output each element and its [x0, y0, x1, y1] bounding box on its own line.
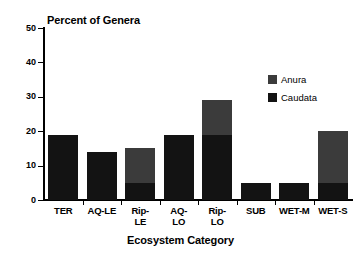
bar-segment-caudata[interactable]	[125, 183, 155, 200]
chart-title: Percent of Genera	[47, 14, 140, 26]
bar-segment-caudata[interactable]	[318, 183, 348, 200]
bar-segment-caudata[interactable]	[202, 135, 232, 200]
bar-segment-caudata[interactable]	[164, 135, 194, 200]
bar-chart: Percent of Genera 01020304050 TERAQ-LERi…	[0, 0, 361, 257]
bar-rip-le[interactable]	[125, 148, 155, 200]
x-axis-title: Ecosystem Category	[0, 234, 361, 246]
bar-aq-lo[interactable]	[164, 135, 194, 200]
legend-swatch-icon	[268, 75, 277, 84]
y-axis-tick-label: 20	[0, 127, 36, 136]
chart-legend: AnuraCaudata	[268, 72, 317, 108]
x-axis-label-wet-m: WET-M	[275, 205, 314, 216]
bar-segment-caudata[interactable]	[87, 152, 117, 200]
x-axis-label-rip-le: Rip-LE	[121, 205, 160, 227]
x-axis-label-sub: SUB	[237, 205, 276, 216]
y-axis-tick-label: 30	[0, 92, 36, 101]
x-axis-label-rip-lo: Rip-LO	[198, 205, 237, 227]
legend-swatch-icon	[268, 93, 277, 102]
bar-wet-m[interactable]	[279, 183, 309, 200]
y-axis-tick-mark	[38, 200, 44, 201]
bar-segment-anura[interactable]	[125, 148, 155, 182]
bar-segment-caudata[interactable]	[48, 135, 78, 200]
y-axis-tick-label: 10	[0, 161, 36, 170]
bar-aq-le[interactable]	[87, 152, 117, 200]
y-axis-tick-label: 40	[0, 58, 36, 67]
bar-wet-s[interactable]	[318, 131, 348, 200]
legend-label: Anura	[281, 75, 306, 85]
bar-ter[interactable]	[48, 135, 78, 200]
x-axis-label-ter: TER	[44, 205, 83, 216]
plot-area	[44, 28, 352, 200]
x-axis-label-aq-lo: AQ-LO	[160, 205, 199, 227]
x-axis-label-aq-le: AQ-LE	[83, 205, 122, 216]
bar-segment-caudata[interactable]	[279, 183, 309, 200]
legend-item-caudata[interactable]: Caudata	[268, 90, 317, 105]
bar-segment-anura[interactable]	[318, 131, 348, 183]
legend-label: Caudata	[281, 93, 317, 103]
bar-segment-anura[interactable]	[202, 100, 232, 134]
bar-sub[interactable]	[241, 183, 271, 200]
x-axis-label-wet-s: WET-S	[314, 205, 353, 216]
y-axis-tick-label: 50	[0, 24, 36, 33]
bar-segment-caudata[interactable]	[241, 183, 271, 200]
y-axis-tick-label: 0	[0, 196, 36, 205]
bar-rip-lo[interactable]	[202, 100, 232, 200]
legend-item-anura[interactable]: Anura	[268, 72, 317, 87]
